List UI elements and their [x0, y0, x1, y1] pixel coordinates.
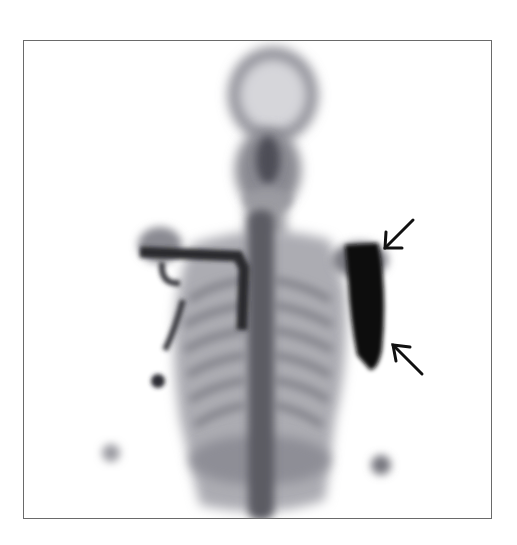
bone-scan-image: [0, 0, 517, 545]
arrow-upper-icon: [385, 220, 413, 248]
arrow-lower-icon: [393, 345, 422, 374]
skull: [228, 47, 318, 212]
